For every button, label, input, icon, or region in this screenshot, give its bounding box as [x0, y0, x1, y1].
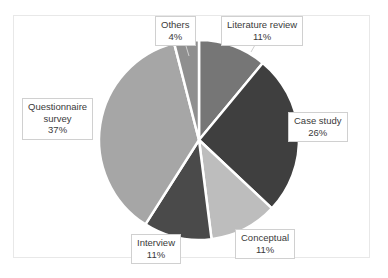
callout-label: Others	[161, 19, 190, 31]
pie-slice-group	[99, 40, 299, 240]
callout-percent: 11%	[241, 244, 289, 256]
callout-label: Interview	[137, 237, 175, 249]
callout-percent: 11%	[227, 31, 297, 43]
callout-label: Literature review	[227, 19, 297, 31]
callout-label: Conceptual	[241, 232, 289, 244]
callout-percent: 37%	[28, 124, 87, 136]
callout-percent: 11%	[137, 249, 175, 261]
callout-label-line1: Questionnaire	[28, 101, 87, 113]
callout-case-study[interactable]: Case study 26%	[288, 112, 348, 142]
callout-questionnaire-survey[interactable]: Questionnaire survey 37%	[22, 98, 93, 140]
callout-conceptual[interactable]: Conceptual 11%	[235, 229, 295, 259]
callout-label: Case study	[294, 115, 342, 127]
callout-percent: 4%	[161, 31, 190, 43]
callout-interview[interactable]: Interview 11%	[131, 234, 181, 264]
leader-line-literature	[251, 45, 255, 52]
callout-label-line2: survey	[28, 113, 87, 125]
callout-others[interactable]: Others 4%	[155, 16, 196, 46]
callout-percent: 26%	[294, 127, 342, 139]
callout-literature-review[interactable]: Literature review 11%	[221, 16, 303, 46]
